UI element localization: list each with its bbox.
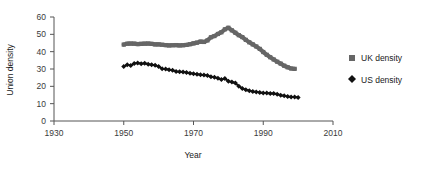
data-point-us [247,88,252,93]
x-tick-label: 1970 [184,128,203,138]
y-tick-label: 60 [37,12,47,22]
x-axis-tick-marks [54,121,333,125]
data-point-us [296,95,301,100]
y-tick-label: 20 [37,81,47,91]
y-axis-title-group: Union density [5,44,15,96]
data-point-us [142,61,147,66]
y-axis-tick-marks [50,17,54,121]
y-tick-label: 30 [37,64,47,74]
chart-container: Union density 0102030405060 193019501970… [0,0,429,178]
union-density-line-chart: Union density 0102030405060 193019501970… [0,0,429,178]
x-tick-label: 2010 [324,128,343,138]
y-tick-label: 10 [37,99,47,109]
y-tick-label: 40 [37,47,47,57]
legend-label-uk-density: UK density [361,53,403,63]
x-tick-label: 1990 [254,128,273,138]
y-axis-tick-labels: 0102030405060 [37,12,47,126]
x-axis-tick-labels: 19301950197019902010 [45,128,343,138]
legend-marker-us-density [348,75,356,83]
x-tick-label: 1930 [45,128,64,138]
y-axis-title: Union density [5,44,15,96]
x-tick-label: 1950 [114,128,133,138]
legend-marker-uk-density [349,55,355,61]
series-markers-us-density [121,60,300,100]
legend-label-us-density: US density [361,75,403,85]
data-point-uk [293,67,297,71]
series-line-us-density [124,63,298,98]
series-line-uk-density [124,28,295,69]
x-axis-title: Year [184,150,201,160]
legend: UK density US density [348,53,403,85]
y-tick-label: 50 [37,29,47,39]
y-tick-label: 0 [41,116,46,126]
